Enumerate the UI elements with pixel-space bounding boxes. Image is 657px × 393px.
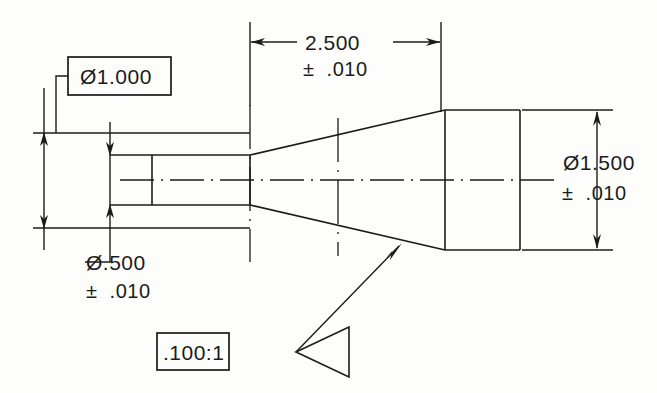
- bore-diameter-tolerance-label: ± .010: [86, 280, 151, 302]
- taper-note-label: .100:1: [163, 341, 224, 364]
- centerline-group: [120, 105, 560, 262]
- cone-upper-face: [250, 110, 445, 155]
- large-diameter-tolerance-label: ± .010: [562, 182, 627, 204]
- cone-lower-face: [250, 205, 445, 250]
- leader-taper-note: [296, 246, 399, 352]
- bore-diameter-value-label: Ø.500: [86, 251, 146, 274]
- drawing-sheet: Ø1.000 2.500 ± .010 Ø1.500 ± .010 Ø.500 …: [0, 0, 657, 393]
- outer-diameter-label: Ø1.000: [80, 65, 152, 88]
- taper-note-open-arrow: [296, 327, 349, 377]
- length-value-label: 2.500: [305, 31, 360, 54]
- length-tolerance-label: ± .010: [303, 58, 368, 80]
- leader-outer-diameter: [56, 76, 68, 133]
- large-diameter-value-label: Ø1.500: [563, 151, 635, 174]
